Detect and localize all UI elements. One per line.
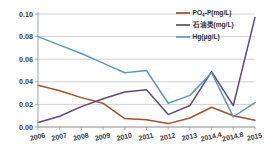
legend-label: PO4-P(mg/L) (193, 9, 232, 18)
x-axis-tick-labels: 200620072008200920102011201220132014.420… (29, 131, 263, 143)
y-tick-label: 0.02 (19, 100, 33, 109)
x-tick-label: 2008 (72, 131, 89, 141)
x-tick-label: 2014.8 (222, 131, 245, 143)
y-tick-label: 0.10 (19, 10, 33, 19)
chart-container: 0.000.020.040.060.080.10 200620072008200… (0, 0, 264, 152)
x-tick-label: 2010 (116, 131, 133, 141)
x-tick-label: 2009 (94, 131, 111, 141)
y-tick-label: 0.04 (19, 77, 33, 86)
y-tick-label: 0.00 (19, 123, 33, 132)
data-series-group (38, 17, 255, 123)
line-chart: 0.000.020.040.060.080.10 200620072008200… (0, 0, 264, 152)
x-tick-label: 2006 (29, 131, 46, 141)
x-tick-label: 2007 (51, 131, 68, 141)
x-tick-label: 2014.4 (200, 131, 223, 143)
x-tick-label: 2015 (246, 131, 263, 141)
series-line (38, 37, 255, 117)
x-tick-label: 2011 (138, 131, 154, 141)
x-tick-label: 2013 (181, 131, 198, 141)
x-tick-label: 2012 (159, 131, 176, 141)
legend-label: 石油类(mg/L) (192, 20, 234, 29)
y-tick-label: 0.06 (19, 55, 33, 64)
y-tick-label: 0.08 (19, 32, 33, 41)
legend-label: Hg(μg/L) (193, 33, 220, 41)
y-axis-tick-labels: 0.000.020.040.060.080.10 (19, 10, 33, 132)
